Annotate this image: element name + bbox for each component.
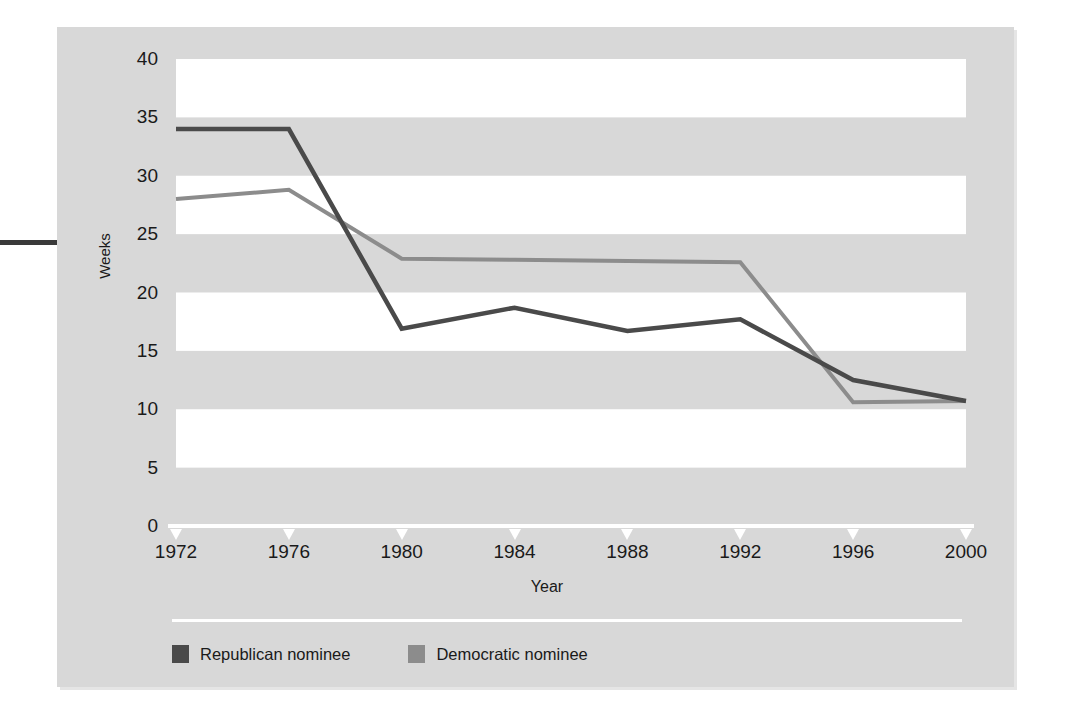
x-axis-tick-label: 1976 xyxy=(268,541,310,563)
x-axis-tick-label: 1972 xyxy=(155,541,197,563)
y-axis-tick-label: 25 xyxy=(137,223,158,245)
chart-legend: Republican nomineeDemocratic nominee xyxy=(172,639,646,669)
y-axis-tick-label: 10 xyxy=(137,398,158,420)
y-axis-tick-label: 15 xyxy=(137,340,158,362)
series-line-republican-nominee xyxy=(176,129,966,401)
x-axis-tick-mark xyxy=(734,529,746,540)
x-axis-tick-mark xyxy=(960,529,972,540)
x-axis-tick-mark xyxy=(283,529,295,540)
x-axis-tick-label: 1980 xyxy=(381,541,423,563)
x-axis-tick-label: 1996 xyxy=(832,541,874,563)
x-axis-tick-label: 1992 xyxy=(719,541,761,563)
grid-band xyxy=(176,59,966,117)
y-axis-tick-label: 35 xyxy=(137,106,158,128)
x-axis-tick-mark xyxy=(847,529,859,540)
x-axis-line xyxy=(168,524,974,528)
x-axis-tick-mark xyxy=(509,529,521,540)
x-axis-tick-label: 1988 xyxy=(606,541,648,563)
chart-figure: Weeks 0510152025303540 19721976198019841… xyxy=(0,0,1070,727)
series-lines xyxy=(176,59,966,526)
legend-item: Republican nominee xyxy=(172,645,350,664)
legend-item: Democratic nominee xyxy=(408,645,587,664)
y-axis-tick-label: 5 xyxy=(147,457,158,479)
x-axis-tick-label: 2000 xyxy=(945,541,987,563)
x-axis-tick-label: 1984 xyxy=(493,541,535,563)
x-axis-title: Year xyxy=(0,578,1070,596)
legend-separator xyxy=(172,619,962,622)
legend-swatch xyxy=(172,645,189,663)
y-axis-tick-label: 0 xyxy=(147,515,158,537)
y-axis-tick-label: 40 xyxy=(137,48,158,70)
y-axis-tick-label: 30 xyxy=(137,165,158,187)
grid-bands xyxy=(176,59,966,468)
plot-area xyxy=(176,59,966,526)
grid-band xyxy=(176,293,966,351)
x-axis-tick-mark xyxy=(621,529,633,540)
y-axis-tick-label: 20 xyxy=(137,282,158,304)
legend-swatch xyxy=(408,645,425,663)
x-axis-tick-mark xyxy=(170,529,182,540)
y-axis-tick-labels: 0510152025303540 xyxy=(96,59,158,526)
x-axis-tick-mark xyxy=(396,529,408,540)
grid-band xyxy=(176,176,966,234)
legend-label: Republican nominee xyxy=(200,645,350,664)
x-axis-title-text: Year xyxy=(531,578,563,596)
legend-label: Democratic nominee xyxy=(436,645,587,664)
grid-band xyxy=(176,409,966,467)
